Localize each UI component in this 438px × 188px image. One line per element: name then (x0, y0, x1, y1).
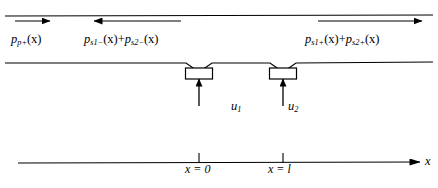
secondary-negative-plus-sign: + (118, 32, 125, 46)
tick-label-origin: x = 0 (185, 163, 210, 175)
x-axis-label: x (425, 155, 431, 168)
secondary-source-1-box (186, 68, 213, 79)
x-axis-line (18, 162, 420, 163)
source-1-velocity-subscript: 1 (237, 105, 241, 114)
primary-wave-subscript: p+ (17, 38, 27, 47)
secondary-positive-plus-sign: + (339, 32, 346, 46)
diagram-canvas (0, 0, 438, 188)
secondary-negative-term1-argument: (x) (103, 32, 118, 46)
duct-bottom-wall (5, 62, 433, 72)
source-2-velocity-subscript: 2 (294, 105, 298, 114)
secondary-positive-term1-argument: (x) (324, 32, 339, 46)
secondary-negative-term2-subscript: s2− (131, 38, 144, 47)
secondary-positive-term1-subscript: s1+ (311, 38, 324, 47)
secondary-negative-term2-argument: (x) (144, 32, 159, 46)
tick-label-length: x = l (268, 163, 291, 175)
duct-top-wall (5, 15, 433, 16)
acoustic-duct-figure: pp+(x) ps1−(x)+ps2−(x) ps1+(x)+ps2+(x) u… (0, 0, 438, 188)
primary-wave-label: pp+(x) (11, 33, 42, 47)
secondary-positive-term2-argument: (x) (365, 32, 380, 46)
secondary-negative-wave-label: ps1−(x)+ps2−(x) (84, 33, 159, 47)
primary-wave-argument: (x) (27, 32, 42, 46)
secondary-positive-wave-label: ps1+(x)+ps2+(x) (305, 33, 380, 47)
secondary-negative-term1-subscript: s1− (90, 38, 103, 47)
secondary-source-2-box (270, 68, 297, 79)
source-2-velocity-label: u2 (288, 100, 298, 114)
source-1-velocity-label: u1 (231, 100, 241, 114)
secondary-positive-term2-subscript: s2+ (352, 38, 365, 47)
